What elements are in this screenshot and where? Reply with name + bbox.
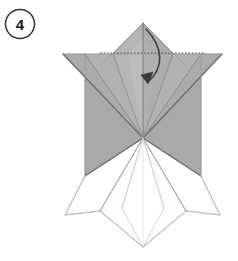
origami-diagram-root: 4 <box>0 0 238 261</box>
step-number-label: 4 <box>16 16 25 33</box>
origami-figure: 4 <box>0 0 238 261</box>
step-number-badge: 4 <box>6 10 35 39</box>
